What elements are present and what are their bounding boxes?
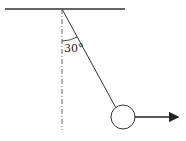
pendulum-diagram: 30° [0,0,186,141]
angle-label: 30° [64,42,84,55]
string [62,9,116,108]
pendulum-bob [111,105,135,129]
angle-arc [62,37,77,41]
